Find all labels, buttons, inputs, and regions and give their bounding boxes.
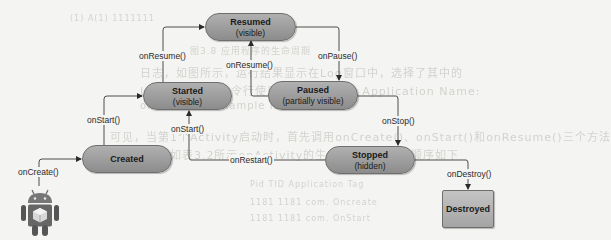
transition-on-create: onCreate() [17,167,60,177]
state-name: Destroyed [446,204,490,215]
state-visibility: (hidden) [354,161,385,171]
state-paused: Paused (partially visible) [268,81,358,110]
transition-on-resume: onResume() [138,51,187,61]
state-name: Resumed [230,17,271,28]
state-name: Created [110,154,144,165]
state-resumed: Resumed (visible) [205,13,296,41]
transition-on-pause: onPause() [317,51,358,61]
state-visibility: (visible) [236,28,265,38]
state-destroyed: Destroyed [442,190,494,228]
state-visibility: (visible) [173,97,202,107]
transition-on-start: onStart() [86,115,121,125]
state-name: Started [172,86,203,97]
state-visibility: (partially visible) [283,96,344,106]
transition-on-start: onStart() [170,124,205,134]
android-robot-icon [20,186,60,238]
transition-on-resume: onResume() [225,60,274,70]
state-stopped: Stopped (hidden) [325,146,415,174]
state-name: Paused [297,85,329,96]
state-name: Stopped [352,150,388,161]
state-created: Created [82,145,172,173]
transition-on-stop: onStop() [381,116,416,126]
state-started: Started (visible) [143,82,232,110]
transition-on-restart: onRestart() [229,155,274,165]
transition-on-destroy: onDestroy() [446,169,492,179]
